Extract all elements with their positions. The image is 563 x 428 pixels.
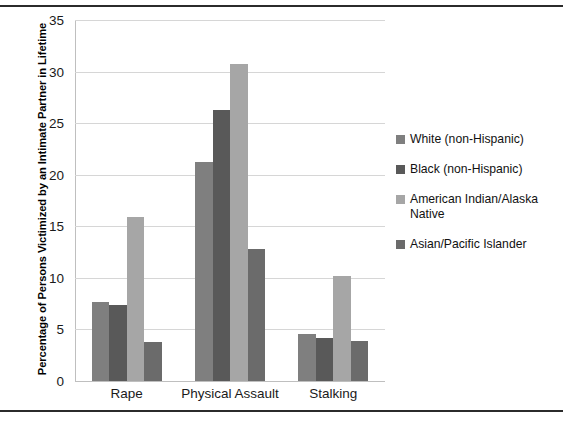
y-axis-tick-labels: 05101520253035 <box>30 20 70 381</box>
top-divider-rule <box>0 5 563 7</box>
bar-physical-assault-series-3 <box>230 64 248 381</box>
legend-swatch-icon-2 <box>396 165 405 174</box>
y-tick-label-0: 0 <box>56 374 64 389</box>
x-tick-label-rape: Rape <box>75 386 178 401</box>
bar-stalking-series-2 <box>316 338 334 381</box>
bar-stalking-series-1 <box>298 334 316 381</box>
legend-item-3[interactable]: American Indian/Alaska Native <box>396 192 556 222</box>
y-tick-label-25: 25 <box>49 116 64 131</box>
y-tick-label-20: 20 <box>49 168 64 183</box>
x-tick-label-physical-assault: Physical Assault <box>178 386 281 401</box>
bar-rape-series-3 <box>127 217 145 381</box>
legend-swatch-icon-4 <box>396 240 405 249</box>
y-tick-label-10: 10 <box>49 271 64 286</box>
legend-label-1: White (non-Hispanic) <box>410 132 524 147</box>
x-axis-tick-labels: RapePhysical AssaultStalking <box>75 386 385 410</box>
bar-rape-series-4 <box>144 342 162 381</box>
x-tick-label-stalking: Stalking <box>282 386 385 401</box>
y-tick-label-30: 30 <box>49 65 64 80</box>
legend-label-4: Asian/Pacific Islander <box>410 237 527 252</box>
legend-swatch-icon-3 <box>396 195 405 204</box>
bar-stalking-series-4 <box>351 341 369 381</box>
legend-label-3: American Indian/Alaska Native <box>410 192 538 222</box>
legend-item-2[interactable]: Black (non-Hispanic) <box>396 162 556 177</box>
legend-label-2: Black (non-Hispanic) <box>410 162 522 177</box>
bar-rape-series-1 <box>92 302 110 381</box>
chart-legend: White (non-Hispanic)Black (non-Hispanic)… <box>396 132 556 267</box>
legend-item-1[interactable]: White (non-Hispanic) <box>396 132 556 147</box>
gridline-0 <box>75 381 385 382</box>
bottom-divider-rule <box>0 410 563 412</box>
plot-area <box>75 20 385 381</box>
y-tick-label-15: 15 <box>49 219 64 234</box>
bar-physical-assault-series-2 <box>213 110 231 381</box>
bar-physical-assault-series-4 <box>248 249 266 381</box>
bar-rape-series-2 <box>109 305 127 381</box>
y-axis-line <box>75 20 76 381</box>
legend-item-4[interactable]: Asian/Pacific Islander <box>396 237 556 252</box>
y-tick-label-35: 35 <box>49 13 64 28</box>
gridline-35 <box>75 20 385 21</box>
chart-figure: Percentage of Persons Victimized by an I… <box>0 0 563 428</box>
bar-physical-assault-series-1 <box>195 162 213 381</box>
y-tick-label-5: 5 <box>56 322 64 337</box>
bar-stalking-series-3 <box>333 276 351 381</box>
legend-swatch-icon-1 <box>396 135 405 144</box>
